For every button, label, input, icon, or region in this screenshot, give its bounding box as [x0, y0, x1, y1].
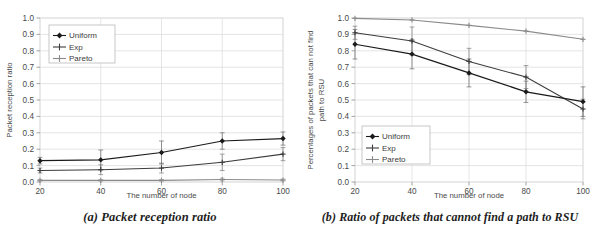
x-tick-label: 80	[521, 187, 531, 196]
y-tick-label: 0.1	[338, 162, 350, 171]
y-axis-title-a: Packet reception ratio	[5, 62, 14, 138]
y-tick-label: 0.8	[23, 47, 35, 56]
y-tick-label: 1.0	[338, 14, 350, 23]
figure-row: 0.0 0.1 0.2 0.3 0.4 0.5 0.6 0.7 0.8 0.9 …	[0, 0, 600, 228]
chart-panel-b: 0.0 0.1 0.2 0.3 0.4 0.5 0.6 0.7 0.8 0.9 …	[300, 0, 600, 198]
y-axis-title-line2: path to RSU	[317, 78, 326, 121]
y-tick-label: 0.2	[23, 145, 35, 154]
y-tick-label: 0.0	[23, 178, 35, 187]
x-tick-label: 20	[35, 187, 45, 196]
x-axis-title-b: The number of node	[434, 191, 504, 198]
y-tick-label: 0.8	[338, 47, 350, 56]
legend-label-exp: Exp	[69, 43, 83, 52]
figure-panel-a: 0.0 0.1 0.2 0.3 0.4 0.5 0.6 0.7 0.8 0.9 …	[0, 0, 300, 228]
legend-b[interactable]: Uniform Exp Pareto	[362, 126, 430, 164]
line-chart-b: 0.0 0.1 0.2 0.3 0.4 0.5 0.6 0.7 0.8 0.9 …	[300, 0, 600, 198]
y-tick-label: 0.6	[338, 80, 350, 89]
legend-label-exp: Exp	[382, 144, 396, 153]
y-tick-label: 0.4	[338, 112, 350, 121]
y-tick-label: 1.0	[23, 14, 35, 23]
x-tick-label: 40	[96, 187, 106, 196]
x-tick-label: 100	[276, 187, 290, 196]
y-tick-label: 0.5	[23, 96, 35, 105]
x-tick-label: 80	[218, 187, 228, 196]
y-tick-label: 0.3	[23, 129, 35, 138]
y-tick-label: 0.9	[23, 30, 35, 39]
y-tick-label: 0.7	[338, 63, 350, 72]
x-axis-ticks-b	[355, 182, 583, 186]
legend-label-uniform: Uniform	[382, 132, 410, 141]
y-tick-label: 0.2	[338, 145, 350, 154]
y-axis-title-line1: Percentages of packets that can not find	[306, 30, 315, 169]
x-tick-label: 40	[407, 187, 417, 196]
legend-label-pareto: Pareto	[69, 54, 93, 63]
y-axis-title-b: Percentages of packets that can not find…	[306, 30, 326, 169]
y-tick-label: 0.5	[338, 96, 350, 105]
y-tick-label: 0.9	[338, 30, 350, 39]
caption-panel-a: (a) Packet reception ratio	[0, 210, 300, 225]
x-tick-label: 20	[350, 187, 360, 196]
y-tick-labels-a: 0.0 0.1 0.2 0.3 0.4 0.5 0.6 0.7 0.8 0.9 …	[23, 14, 35, 187]
y-tick-label: 0.1	[23, 162, 35, 171]
y-tick-label: 0.4	[23, 112, 35, 121]
line-chart-a: 0.0 0.1 0.2 0.3 0.4 0.5 0.6 0.7 0.8 0.9 …	[0, 0, 300, 198]
legend-label-pareto: Pareto	[382, 155, 406, 164]
y-tick-label: 0.6	[23, 80, 35, 89]
chart-panel-a: 0.0 0.1 0.2 0.3 0.4 0.5 0.6 0.7 0.8 0.9 …	[0, 0, 300, 198]
legend-a[interactable]: Uniform Exp Pareto	[49, 25, 115, 63]
y-tick-labels-b: 0.0 0.1 0.2 0.3 0.4 0.5 0.6 0.7 0.8 0.9 …	[338, 14, 350, 187]
caption-panel-b: (b) Ratio of packets that cannot find a …	[300, 210, 600, 225]
y-tick-label: 0.3	[338, 129, 350, 138]
x-tick-label: 100	[576, 187, 590, 196]
y-tick-label: 0.7	[23, 63, 35, 72]
legend-label-uniform: Uniform	[69, 31, 97, 40]
y-tick-label: 0.0	[338, 178, 350, 187]
x-axis-title-a: The number of node	[126, 191, 196, 198]
figure-panel-b: 0.0 0.1 0.2 0.3 0.4 0.5 0.6 0.7 0.8 0.9 …	[300, 0, 600, 228]
